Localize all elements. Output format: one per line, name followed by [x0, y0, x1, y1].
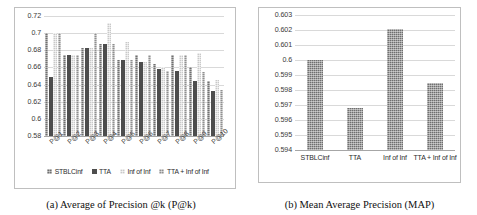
panel-a-bar-group: [206, 16, 224, 136]
figure-container: 0.580.60.620.640.660.680.70.72 P@1P@2P@3…: [0, 0, 477, 215]
panel-a-caption: (a) Average of Precision @k (P@k): [0, 199, 242, 210]
panel-a-bar: [58, 33, 62, 136]
panel-a-bar: [63, 55, 67, 136]
legend-swatch-icon: [92, 169, 97, 174]
legend-swatch-icon: [47, 169, 52, 174]
legend-item: TTA + Inf of Inf: [159, 168, 208, 175]
panel-a-bar: [175, 71, 179, 136]
panel-a-bar: [53, 33, 57, 136]
panel-b-y-tick: 0.601: [275, 41, 292, 49]
panel-a-bar: [121, 60, 125, 136]
panel-a-y-tick: 0.72: [28, 12, 41, 20]
panel-a-bar: [179, 55, 183, 136]
panel-a-bar: [117, 60, 121, 136]
panel-a-y-tick: 0.66: [28, 63, 41, 71]
panel-b-y-axis-labels: 0.5940.5950.5960.5970.5980.5990.60.6010.…: [258, 15, 292, 150]
panel-a-bar: [202, 72, 206, 136]
panel-a-bars-area: [44, 16, 224, 136]
panel-a-bar-group: [116, 16, 134, 136]
legend-label: Inf of Inf: [127, 168, 150, 175]
panel-a-precision-at-k: 0.580.60.620.640.660.680.70.72 P@1P@2P@3…: [0, 0, 242, 215]
panel-a-bar: [207, 81, 211, 136]
panel-a-bar-group: [170, 16, 188, 136]
legend-label: TTA + Inf of Inf: [167, 168, 209, 175]
panel-b-bar: [427, 83, 443, 151]
panel-a-y-tick: 0.62: [28, 98, 41, 106]
panel-a-y-tick: 0.6: [31, 115, 41, 123]
panel-b-bars-area: [295, 15, 455, 150]
panel-a-bar: [49, 77, 53, 136]
panel-b-y-tick: 0.595: [275, 131, 292, 139]
panel-a-bar: [45, 33, 49, 136]
panel-b-y-tick: 0.599: [275, 71, 292, 79]
panel-a-bar: [197, 53, 201, 136]
panel-b-y-tick: 0.602: [275, 26, 292, 34]
panel-a-bar: [193, 81, 197, 136]
panel-b-x-tick-label: TTA + Inf of Inf: [411, 153, 459, 162]
panel-a-bar: [94, 33, 98, 136]
legend-label: STBLCinf: [55, 168, 83, 175]
panel-a-bar: [85, 48, 89, 136]
panel-a-bar: [211, 91, 215, 136]
panel-b-bar: [387, 29, 403, 151]
panel-a-bar-group: [188, 16, 206, 136]
panel-a-y-tick: 0.7: [31, 29, 41, 37]
panel-a-bar: [135, 55, 139, 136]
panel-a-bar: [215, 80, 219, 136]
panel-b-y-tick: 0.6: [282, 56, 292, 64]
panel-b-y-tick: 0.598: [275, 86, 292, 94]
panel-a-bar: [189, 67, 193, 136]
panel-a-bar: [161, 67, 165, 136]
panel-a-bar: [76, 55, 80, 136]
panel-b-y-tick: 0.594: [275, 146, 292, 154]
panel-a-bar: [171, 55, 175, 136]
panel-a-bar: [153, 64, 157, 136]
legend-item: STBLCinf: [47, 168, 82, 175]
panel-b-y-tick: 0.597: [275, 101, 292, 109]
legend-label: TTA: [99, 168, 111, 175]
panel-a-y-tick: 0.64: [28, 81, 41, 89]
panel-a-bar: [112, 44, 116, 136]
panel-b-y-tick: 0.603: [275, 11, 292, 19]
panel-a-bar: [89, 48, 93, 136]
panel-a-bar: [139, 62, 143, 136]
panel-a-bar: [157, 69, 161, 136]
panel-a-bar: [81, 48, 85, 136]
panel-a-bar-group: [152, 16, 170, 136]
panel-a-bar: [107, 23, 111, 136]
panel-a-bar-group: [134, 16, 152, 136]
panel-a-y-tick: 0.68: [28, 46, 41, 54]
panel-a-bar: [99, 44, 103, 136]
panel-a-bar: [143, 62, 147, 136]
panel-a-bar-group: [62, 16, 80, 136]
legend-item: Inf of Inf: [120, 168, 151, 175]
legend-item: TTA: [92, 168, 111, 175]
panel-a-legend: STBLCinfTTAInf of InfTTA + Inf of Inf: [22, 168, 234, 175]
panel-a-bar-group: [80, 16, 98, 136]
panel-a-y-axis-labels: 0.580.60.620.640.660.680.70.72: [14, 16, 41, 136]
panel-b-gridline: [295, 150, 455, 151]
panel-b-caption: (b) Mean Average Precision (MAP): [242, 199, 477, 210]
panel-a-bar: [184, 55, 188, 136]
panel-b-y-tick: 0.596: [275, 116, 292, 124]
panel-a-bar-group: [98, 16, 116, 136]
panel-a-bar: [103, 44, 107, 136]
panel-b-bar: [347, 108, 363, 150]
panel-a-bar: [71, 55, 75, 136]
panel-b-mean-average-precision: 0.5940.5950.5960.5970.5980.5990.60.6010.…: [242, 0, 477, 215]
panel-a-bar: [166, 71, 170, 136]
panel-a-bar-group: [44, 16, 62, 136]
panel-a-y-tick: 0.58: [28, 132, 41, 140]
panel-a-bar: [67, 55, 71, 136]
legend-swatch-icon: [159, 169, 164, 174]
panel-b-bar: [307, 60, 323, 150]
panel-a-bar: [148, 55, 152, 136]
legend-swatch-icon: [120, 169, 125, 174]
panel-a-bar: [125, 42, 129, 136]
panel-a-bar: [130, 60, 134, 136]
